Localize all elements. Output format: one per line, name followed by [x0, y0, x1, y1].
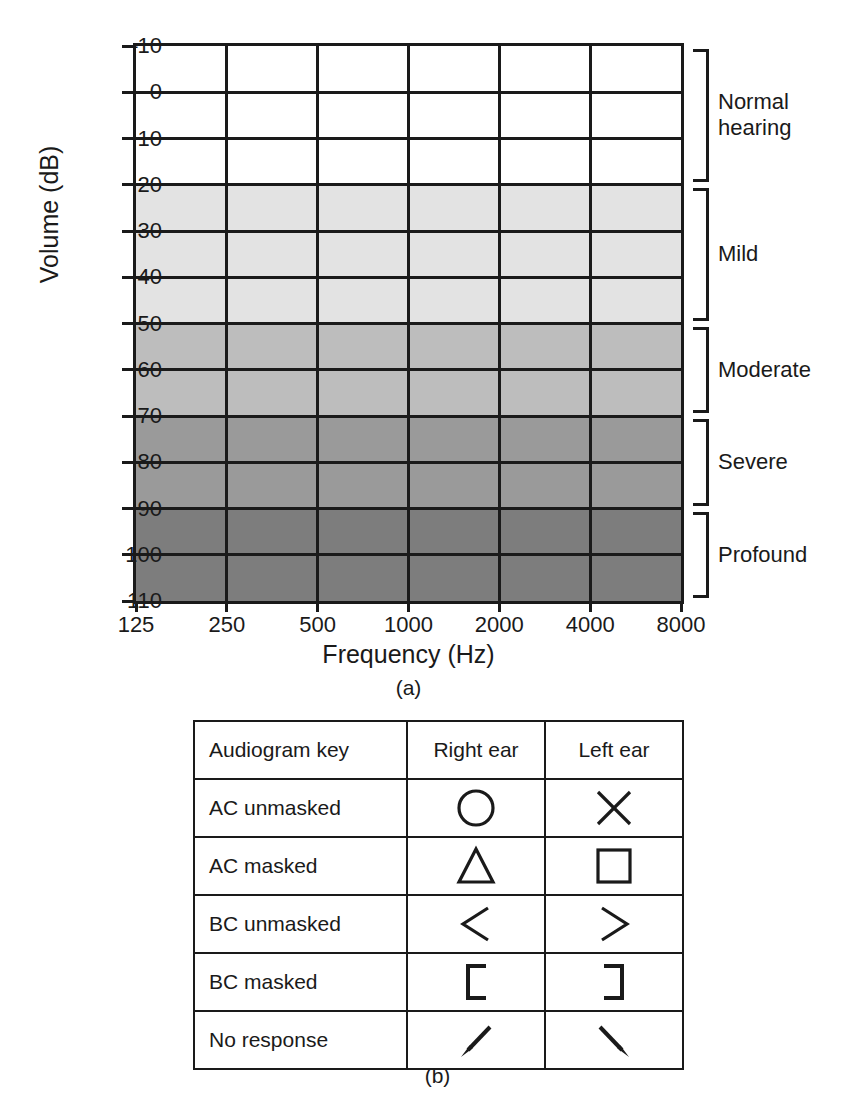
y-tick-mark [122, 553, 133, 556]
audiogram-key-figure: Audiogram keyRight earLeft earAC unmaske… [0, 712, 864, 1107]
severity-band-label: Profound [718, 542, 807, 568]
x-tick-mark [589, 601, 592, 612]
bracket-right-icon [545, 953, 683, 1011]
gridline-vertical [407, 46, 410, 601]
y-tick-mark [122, 91, 133, 94]
key-row-label: AC masked [194, 837, 407, 895]
key-row-label: BC masked [194, 953, 407, 1011]
x-tick-label: 250 [208, 614, 245, 636]
y-tick-label: 80 [138, 451, 162, 473]
y-tick-mark [122, 183, 133, 186]
severity-band-label: Mild [718, 241, 758, 267]
x-tick-mark [316, 601, 319, 612]
x-tick-label: 500 [299, 614, 336, 636]
severity-band-label: Moderate [718, 357, 811, 383]
y-tick-label: 30 [138, 220, 162, 242]
y-axis-title: Volume (dB) [35, 95, 64, 335]
key-row-label: AC unmasked [194, 779, 407, 837]
x-tick-mark [498, 601, 501, 612]
subfigure-label-a: (a) [133, 676, 684, 700]
y-tick-label: 90 [138, 498, 162, 520]
column-header: Audiogram key [194, 721, 407, 779]
severity-bracket [693, 49, 709, 182]
gridline-vertical [498, 46, 501, 601]
y-tick-mark [122, 600, 133, 603]
severity-band-label: Normalhearing [718, 89, 791, 141]
x-tick-mark [680, 601, 683, 612]
arrow-down-right-icon [545, 1011, 683, 1069]
audiogram-key-table: Audiogram keyRight earLeft earAC unmaske… [193, 720, 684, 1070]
severity-bracket [693, 327, 709, 414]
key-row-label: BC unmasked [194, 895, 407, 953]
y-tick-mark [122, 507, 133, 510]
less-than-icon [407, 895, 545, 953]
y-tick-label: 40 [138, 266, 162, 288]
table-row: AC unmasked [194, 779, 683, 837]
severity-bracket [693, 188, 709, 321]
audiogram-figure: Volume (dB) –100102030405060708090100110… [0, 0, 864, 690]
gridline-vertical [225, 46, 228, 601]
x-tick-label: 125 [118, 614, 155, 636]
table-row: AC masked [194, 837, 683, 895]
circle-icon [407, 779, 545, 837]
table-row: BC unmasked [194, 895, 683, 953]
x-tick-label: 1000 [384, 614, 433, 636]
y-tick-mark [122, 45, 133, 48]
column-header: Right ear [407, 721, 545, 779]
y-tick-mark [122, 461, 133, 464]
x-tick-label: 4000 [566, 614, 615, 636]
column-header: Left ear [545, 721, 683, 779]
x-tick-mark [407, 601, 410, 612]
x-axis-title: Frequency (Hz) [133, 640, 684, 669]
y-tick-label: 20 [138, 174, 162, 196]
y-tick-mark [122, 322, 133, 325]
cross-icon [545, 779, 683, 837]
gridline-vertical [316, 46, 319, 601]
x-tick-label: 2000 [475, 614, 524, 636]
y-tick-label: 70 [138, 405, 162, 427]
severity-band-label: Severe [718, 449, 788, 475]
subfigure-label-b: (b) [193, 1064, 682, 1088]
square-icon [545, 837, 683, 895]
key-row-label: No response [194, 1011, 407, 1069]
y-tick-mark [122, 230, 133, 233]
greater-than-icon [545, 895, 683, 953]
table-row: No response [194, 1011, 683, 1069]
y-tick-label: 60 [138, 359, 162, 381]
y-tick-mark [122, 368, 133, 371]
bracket-left-icon [407, 953, 545, 1011]
x-tick-mark [225, 601, 228, 612]
gridline-vertical [589, 46, 592, 601]
arrow-down-left-icon [407, 1011, 545, 1069]
triangle-icon [407, 837, 545, 895]
y-tick-mark [122, 276, 133, 279]
y-tick-label: 0 [150, 81, 162, 103]
y-tick-mark [122, 137, 133, 140]
y-tick-mark [122, 415, 133, 418]
table-row: BC masked [194, 953, 683, 1011]
x-tick-mark [135, 601, 138, 612]
audiogram-plot-area [133, 43, 684, 604]
y-tick-label: 50 [138, 313, 162, 335]
y-tick-label: 10 [138, 128, 162, 150]
severity-bracket [693, 419, 709, 506]
table-header-row: Audiogram keyRight earLeft ear [194, 721, 683, 779]
x-tick-label: 8000 [657, 614, 706, 636]
severity-bracket [693, 512, 709, 599]
